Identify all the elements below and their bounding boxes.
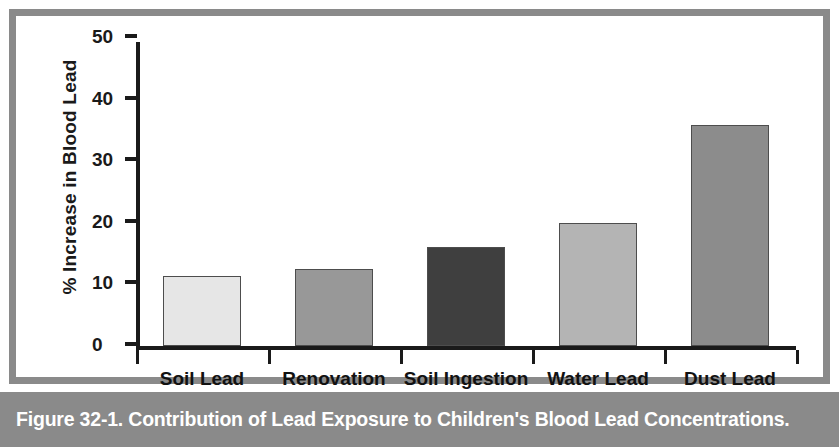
y-tick-label: 30 xyxy=(92,149,114,171)
figure-container: % Increase in Blood Lead 01020304050 Soi… xyxy=(0,0,839,447)
x-tick-label: Soil Ingestion xyxy=(404,368,529,390)
bar-slot xyxy=(664,38,796,346)
bar xyxy=(559,223,637,346)
bar-slot xyxy=(268,38,400,346)
bar xyxy=(691,125,769,346)
figure-caption-bar: Figure 32-1. Contribution of Lead Exposu… xyxy=(0,392,839,447)
bar xyxy=(295,269,373,346)
bar xyxy=(163,276,241,346)
plot-area: % Increase in Blood Lead 01020304050 Soi… xyxy=(16,16,823,377)
axes: 01020304050 xyxy=(136,26,796,356)
y-tick-label: 0 xyxy=(92,334,114,356)
x-axis-line xyxy=(136,346,796,350)
x-tick-mark xyxy=(532,350,535,364)
y-axis-title: % Increase in Blood Lead xyxy=(59,27,81,327)
bar-slot xyxy=(136,38,268,346)
x-tick-label: Water Lead xyxy=(547,368,649,390)
y-tick-label: 20 xyxy=(92,211,114,233)
x-tick-mark xyxy=(400,350,403,364)
x-tick-label: Soil Lead xyxy=(160,368,244,390)
y-tick-label: 10 xyxy=(92,272,114,294)
bar-slot xyxy=(532,38,664,346)
x-tick-label: Renovation xyxy=(282,368,385,390)
x-tick-label: Dust Lead xyxy=(684,368,776,390)
x-tick-mark xyxy=(136,350,139,364)
y-tick-label: 50 xyxy=(92,26,114,48)
y-tick-label: 40 xyxy=(92,88,114,110)
bar-group xyxy=(136,38,796,346)
x-tick-mark xyxy=(796,350,799,364)
chart-panel: % Increase in Blood Lead 01020304050 Soi… xyxy=(9,9,830,384)
x-tick-mark xyxy=(664,350,667,364)
x-tick-mark xyxy=(268,350,271,364)
bar-slot xyxy=(400,38,532,346)
bar xyxy=(427,247,505,346)
figure-caption-text: Figure 32-1. Contribution of Lead Exposu… xyxy=(0,408,790,431)
